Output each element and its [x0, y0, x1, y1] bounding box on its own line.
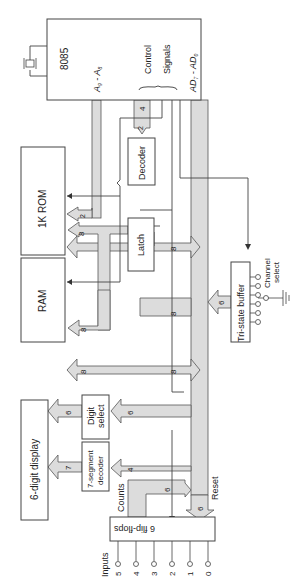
seg-label-1: 7-segment [86, 449, 95, 488]
arrow-tristate-en [245, 244, 251, 250]
latch-to-ram-bus [68, 290, 110, 336]
data-bus-label: AD7 - AD0 [188, 54, 199, 93]
cpu-8085-box [47, 19, 201, 100]
bus-width-seg-display: 7 [64, 465, 73, 470]
bus-width-decoder-in: 2 [137, 126, 144, 130]
input-3: 3 [150, 571, 159, 576]
arrow-rom-cs [67, 193, 72, 199]
ram-label: RAM [37, 290, 48, 312]
inputs-label: Inputs [100, 552, 110, 577]
bus-width-bus-ff: 6 [196, 506, 205, 511]
rom-label: 1K ROM [37, 190, 48, 228]
select-label: select [272, 261, 281, 283]
tristate-label: Tri-state buffer [236, 284, 246, 342]
input-4: 4 [132, 571, 141, 576]
signals-label: Signals [162, 44, 172, 74]
digit-select-label: select [96, 404, 106, 428]
control-wire-tristate [180, 100, 248, 248]
decoder-label: Decoder [137, 146, 147, 180]
seg-label-2: decoder [96, 456, 105, 485]
crystal-icon [26, 60, 34, 67]
cpu-label: 8085 [59, 47, 70, 70]
bus-width-bus-seg: 4 [126, 467, 135, 472]
input-0: 0 [204, 571, 213, 576]
block-diagram: 8085 A9 - A8 Control Signals AD7 - AD0 4… [0, 0, 301, 584]
display-label: 6-digit display [29, 439, 40, 500]
input-1: 1 [186, 571, 195, 576]
flipflops-label: 6 flip-flops [113, 524, 155, 534]
input-terminals[interactable] [116, 541, 211, 567]
bus-width-counts: 6 [163, 487, 172, 492]
bus-width-data-rom: 8 [169, 246, 178, 251]
input-2: 2 [168, 571, 177, 576]
bus-width-data-latch: 8 [169, 311, 178, 316]
bus-width-digit-display: 6 [64, 410, 73, 415]
control-label: Control [143, 45, 153, 74]
data-bus [191, 100, 208, 495]
digit-label: Digit [86, 406, 96, 425]
bus-width-latch-ram: 8 [79, 327, 88, 332]
bus-width-latch-rom: 8 [77, 231, 86, 236]
bus-width-tristate: 6 [217, 300, 226, 305]
bus-width-data-ram-left: 8 [79, 369, 88, 374]
latch-label: Latch [136, 234, 146, 256]
data-to-latch-bus [140, 298, 191, 316]
bus-width-cpu-decoder: 4 [138, 106, 147, 111]
reset-label: Reset [210, 476, 220, 500]
arrow-ram-cs [67, 279, 72, 285]
bus-width-data-ram-right: 8 [169, 369, 178, 374]
input-5: 5 [114, 571, 123, 576]
channel-label: Channel [263, 258, 272, 288]
bus-to-digit-select [111, 399, 191, 423]
bus-to-seg-decoder [111, 459, 191, 477]
address-bus-label: A9 - A8 [92, 67, 103, 93]
bus-width-addr-rom: 2 [79, 214, 86, 218]
counts-label: Counts [116, 483, 126, 512]
address-bus [92, 100, 101, 218]
bus-width-bus-digit: 6 [126, 410, 135, 415]
counts-to-bus [128, 480, 191, 517]
